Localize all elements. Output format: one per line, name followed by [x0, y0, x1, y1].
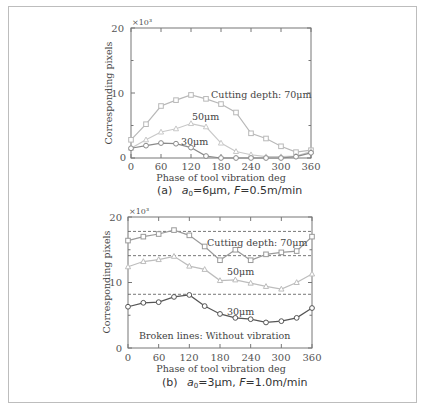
xtick-label: 180 [210, 352, 229, 363]
marker-circle [309, 150, 314, 155]
marker-triangle [156, 257, 161, 262]
caption-text: =6μm, [193, 184, 234, 197]
marker-circle [174, 141, 179, 146]
marker-square [264, 136, 269, 141]
annotation-30um-b: 30μm [227, 306, 254, 317]
marker-circle [129, 146, 134, 151]
scale-label-b: ×10³ [129, 207, 149, 216]
marker-square [264, 252, 269, 257]
caption-prefix: (b) [162, 376, 178, 389]
marker-square [129, 138, 134, 143]
marker-circle [204, 154, 209, 159]
marker-triangle [173, 126, 178, 131]
marker-triangle [125, 264, 130, 269]
marker-circle [159, 141, 164, 146]
caption-prefix: (a) [157, 184, 172, 197]
marker-circle [156, 300, 161, 305]
marker-triangle [263, 284, 268, 289]
marker-square [218, 258, 223, 263]
caption-text: =0.5m/min [240, 184, 302, 197]
marker-square [294, 249, 299, 254]
marker-square [174, 98, 179, 103]
xtick-label: 60 [153, 352, 166, 363]
marker-square [234, 110, 239, 115]
x-tick-labels-a: 0 60 120 180 240 300 360 [128, 161, 321, 172]
chart-panel-a: ×10³ 20 10 0 0 60 120 180 240 300 360 Ph… [103, 18, 321, 198]
xtick-label: 120 [179, 352, 198, 363]
annotation-50um-b: 50μm [227, 266, 254, 277]
marker-triangle [309, 271, 314, 276]
caption-b: (b) a0=3μm, F=1.0m/min [162, 376, 307, 390]
marker-triangle [233, 277, 238, 282]
marker-triangle [171, 254, 176, 259]
marker-triangle [187, 263, 192, 268]
marker-circle [294, 154, 299, 159]
marker-circle [202, 304, 207, 309]
xtick-label: 240 [241, 161, 260, 172]
marker-square [189, 93, 194, 98]
marker-square [233, 247, 238, 252]
marker-triangle [217, 278, 222, 283]
ytick-20-b: 20 [109, 212, 122, 223]
marker-square [204, 97, 209, 102]
caption-text: =1.0m/min [246, 376, 308, 389]
x-axis-title-a: Phase of tool vibration deg [156, 172, 285, 183]
marker-square [141, 234, 146, 239]
marker-triangle [203, 124, 208, 129]
xtick-label: 240 [241, 352, 260, 363]
marker-triangle [233, 149, 238, 154]
marker-circle [218, 312, 223, 317]
marker-triangle [248, 280, 253, 285]
marker-square [249, 131, 254, 136]
annotation-70um-b: Cutting depth: 70μm [207, 237, 308, 248]
marker-square [159, 104, 164, 109]
marker-square [279, 250, 284, 255]
marker-triangle [141, 259, 146, 264]
x-tick-labels-b: 0 60 120 180 240 300 360 [125, 352, 322, 363]
x-axis-title-b: Phase of tool vibration deg [156, 363, 285, 374]
xtick-label: 300 [271, 161, 290, 172]
xtick-label: 60 [155, 161, 168, 172]
marker-square [279, 144, 284, 149]
series-group-a [128, 93, 313, 161]
marker-square [248, 258, 253, 263]
xtick-label: 0 [128, 161, 134, 172]
marker-circle [144, 143, 149, 148]
marker-circle [264, 156, 269, 161]
marker-square [172, 228, 177, 233]
xtick-label: 180 [211, 161, 230, 172]
marker-circle [264, 320, 269, 325]
series-line [128, 295, 312, 323]
marker-circle [219, 156, 224, 161]
marker-circle [279, 156, 284, 161]
marker-square [126, 238, 131, 243]
marker-square [144, 122, 149, 127]
ytick-0-b: 0 [116, 343, 122, 354]
marker-triangle [158, 129, 163, 134]
marker-circle [249, 156, 254, 161]
marker-triangle [143, 137, 148, 142]
marker-triangle [202, 267, 207, 272]
y-axis-title-a: Corresponding pixels [103, 41, 114, 144]
caption-text: =3μm, [198, 376, 239, 389]
marker-circle [187, 293, 192, 298]
marker-circle [248, 317, 253, 322]
xtick-label: 120 [181, 161, 200, 172]
marker-circle [172, 295, 177, 300]
marker-square [156, 232, 161, 237]
xtick-label: 300 [271, 352, 290, 363]
chart-panel-b: ×10³ 20 10 0 0 60 120 180 240 300 360 Ph… [101, 207, 322, 390]
marker-circle [126, 304, 131, 309]
marker-circle [234, 156, 239, 161]
annotation-50um-a: 50μm [192, 111, 219, 122]
annotation-30um-a: 30μm [181, 136, 208, 147]
marker-square [219, 102, 224, 107]
xtick-label: 0 [125, 352, 131, 363]
scale-label-a: ×10³ [132, 18, 152, 27]
marker-square [187, 233, 192, 238]
annotation-broken-lines: Broken lines: Without vibration [139, 330, 290, 341]
marker-circle [141, 300, 146, 305]
caption-a: (a) a0=6μm, F=0.5m/min [157, 184, 302, 198]
annotation-70um-a: Cutting depth: 70μm [211, 89, 312, 100]
marker-triangle [279, 286, 284, 291]
